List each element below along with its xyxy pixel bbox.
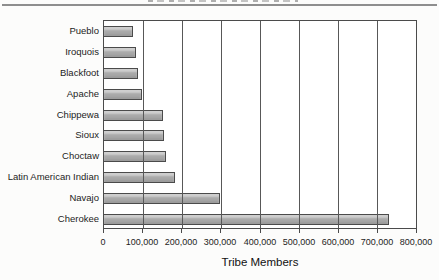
bar-sioux [104, 130, 164, 141]
x-tick-mark-100000 [142, 229, 143, 233]
bar-blackfoot [104, 68, 138, 79]
bar-pueblo [104, 26, 133, 37]
x-tick-mark-600000 [338, 229, 339, 233]
bar-navajo [104, 193, 220, 204]
x-tick-mark-300000 [220, 229, 221, 233]
bar-iroquois [104, 47, 136, 58]
bar-latin-american-indian [104, 172, 175, 183]
plot-area [103, 20, 417, 229]
x-tick-label-400000: 400,000 [244, 237, 277, 247]
x-axis-title: Tribe Members [103, 256, 417, 268]
bar-apache [104, 89, 142, 100]
category-label-cherokee: Cherokee [0, 213, 99, 224]
category-label-chippewa: Chippewa [0, 109, 99, 120]
category-label-navajo: Navajo [0, 192, 99, 203]
x-tick-mark-0 [103, 229, 104, 233]
gridline-600000 [338, 21, 339, 228]
category-label-iroquois: Iroquois [0, 46, 99, 57]
gridline-700000 [377, 21, 378, 228]
x-tick-mark-800000 [416, 229, 417, 233]
gridline-300000 [221, 21, 222, 228]
x-tick-mark-500000 [299, 229, 300, 233]
category-label-blackfoot: Blackfoot [0, 67, 99, 78]
category-label-latin-american-indian: Latin American Indian [0, 171, 99, 182]
bar-chippewa [104, 110, 163, 121]
bar-cherokee [104, 214, 389, 225]
x-tick-label-800000: 800,000 [400, 237, 433, 247]
x-tick-label-700000: 700,000 [361, 237, 394, 247]
bar-choctaw [104, 151, 166, 162]
x-tick-mark-700000 [377, 229, 378, 233]
gridline-500000 [299, 21, 300, 228]
category-label-apache: Apache [0, 88, 99, 99]
gridline-100000 [143, 21, 144, 228]
x-tick-label-100000: 100,000 [126, 237, 159, 247]
category-label-choctaw: Choctaw [0, 150, 99, 161]
x-tick-label-300000: 300,000 [204, 237, 237, 247]
x-tick-label-0: 0 [100, 237, 105, 247]
gridline-400000 [260, 21, 261, 228]
x-tick-label-200000: 200,000 [165, 237, 198, 247]
x-tick-label-600000: 600,000 [322, 237, 355, 247]
category-label-pueblo: Pueblo [0, 25, 99, 36]
tribe-members-bar-chart: PuebloIroquoisBlackfootApacheChippewaSio… [0, 0, 439, 280]
chart-page: PuebloIroquoisBlackfootApacheChippewaSio… [0, 0, 439, 280]
category-axis-labels: PuebloIroquoisBlackfootApacheChippewaSio… [0, 20, 99, 229]
category-label-sioux: Sioux [0, 129, 99, 140]
x-tick-label-500000: 500,000 [283, 237, 316, 247]
x-tick-mark-400000 [260, 229, 261, 233]
x-tick-mark-200000 [181, 229, 182, 233]
gridline-200000 [182, 21, 183, 228]
